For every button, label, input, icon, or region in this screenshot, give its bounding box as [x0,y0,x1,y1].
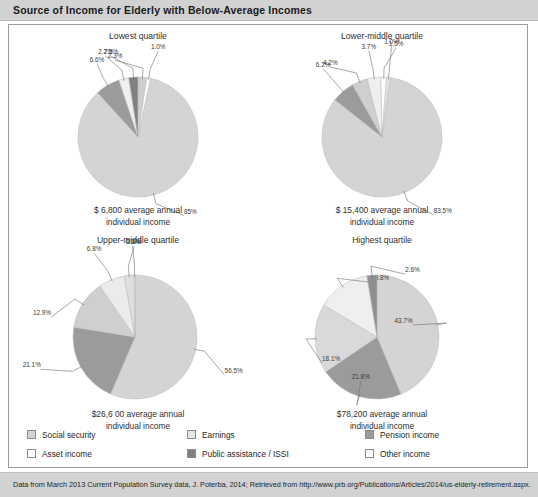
legend-label: Earnings [202,430,235,440]
legend-swatch-icon [187,430,196,439]
pie-svg-2: 56.5%21.1%12.9%6.8%2.6%0.2% [23,233,253,433]
slice-value-label: 1.0% [151,43,166,50]
chart-legend: Social security Earnings Pension income … [27,425,511,465]
slice-value-label: 12.9% [33,309,51,316]
legend-swatch-icon [27,430,36,439]
slice-value-label: 2.6% [405,266,420,273]
legend-label: Public assistance / ISSI [202,449,289,459]
chart-page: Source of Income for Elderly with Below-… [0,0,538,497]
caption-line-1: $ 6,800 average annual [23,205,253,217]
pie-chart-lower-middle-quartile: Lower-middle quartile 83.5%6.2%4.2%3.7%1… [267,29,497,229]
legend-swatch-icon [365,430,374,439]
label-leader-line [115,60,143,79]
pie-chart-lowest-quartile: Lowest quartile 85%6.6%2.7%2.5%2.3%1.0% … [23,29,253,229]
slice-value-label: 0.2% [125,238,140,245]
label-leader-line [94,253,112,281]
legend-label: Pension income [380,430,439,440]
legend-label: Other income [380,449,430,459]
slice-value-label: 6.6% [90,56,105,63]
slice-value-label: 6.8% [87,245,102,252]
slice-value-label: 43.7% [394,317,412,324]
pie-chart-upper-middle-quartile: Upper-middle quartile 56.5%21.1%12.9%6.8… [23,233,253,433]
legend-swatch-icon [365,449,374,458]
footer-bar: Data from March 2013 Current Population … [0,472,538,497]
caption-line-1: $ 15,400 average annual [267,205,497,217]
legend-grid: Social security Earnings Pension income … [27,425,511,463]
pie-svg-0: 85%6.6%2.7%2.5%2.3%1.0% [23,29,253,229]
slice-value-label: 1.0% [384,38,399,45]
legend-item-public-assistance: Public assistance / ISSI [187,449,365,459]
pie-chart-highest-quartile: Highest quartile 43.7%21.8%18.1%13.8%2.6… [267,233,497,433]
slice-value-label: 21.8% [352,373,370,380]
chart-panel: Lowest quartile 85%6.6%2.7%2.5%2.3%1.0% … [8,24,528,468]
caption-line-2: individual income [267,217,497,229]
legend-label: Social security [42,430,96,440]
chart-caption: $ 6,800 average annual individual income [23,205,253,228]
label-leader-line [128,246,134,277]
legend-swatch-icon [187,449,196,458]
label-leader-line [330,67,360,83]
pie-area-1: 83.5%6.2%4.2%3.7%1.5%1.0% [267,29,497,229]
label-leader-line [323,69,344,93]
label-leader-line [369,51,375,80]
slice-value-label: 56.5% [225,367,243,374]
source-note: Data from March 2013 Current Population … [13,480,531,489]
legend-item-pension-income: Pension income [365,430,515,440]
slice-value-label: 3.7% [362,43,377,50]
caption-line-1: $26,6 00 average annual [23,409,253,421]
label-leader-line [148,51,158,80]
page-title: Source of Income for Elderly with Below-… [13,4,312,16]
chart-caption: $ 15,400 average annual individual incom… [267,205,497,228]
caption-line-2: individual income [23,217,253,229]
slice-value-label: 2.3% [108,52,123,59]
pie-area-0: 85%6.6%2.7%2.5%2.3%1.0% [23,29,253,229]
legend-item-asset-income: Asset income [27,449,187,459]
label-leader-line [388,46,391,79]
slice-value-label: 4.2% [323,59,338,66]
pie-area-2: 56.5%21.1%12.9%6.8%2.6%0.2% [23,233,253,433]
label-leader-line [106,56,125,81]
label-leader-line [41,366,83,371]
label-leader-line [133,246,135,277]
label-leader-line [97,64,109,88]
legend-item-earnings: Earnings [187,430,365,440]
pie-svg-3: 43.7%21.8%18.1%13.8%2.6% [267,233,497,433]
label-leader-line [111,56,134,79]
slice-value-label: 21.1% [23,361,41,368]
label-leader-line [194,349,225,375]
legend-item-other-income: Other income [365,449,515,459]
legend-label: Asset income [42,449,92,459]
pie-area-3: 43.7%21.8%18.1%13.8%2.6% [267,233,497,433]
pie-svg-1: 83.5%6.2%4.2%3.7%1.5%1.0% [267,29,497,229]
legend-swatch-icon [27,449,36,458]
legend-item-social-security: Social security [27,430,187,440]
slice-value-label: 18.1% [322,355,340,362]
header-bar: Source of Income for Elderly with Below-… [0,0,538,21]
caption-line-1: $78,200 average annual [267,409,497,421]
